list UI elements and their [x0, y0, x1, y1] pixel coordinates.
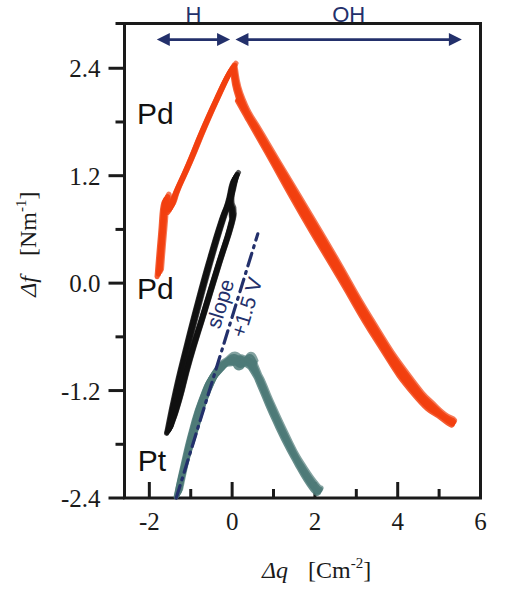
y-tick-label: 1.2 — [69, 163, 100, 190]
y-unit-exponent: -1 — [13, 200, 29, 213]
chart-figure: -202462.41.20.0-1.2-2.4 H OH slope +1.5 … — [0, 0, 510, 607]
x-tick-label: 2 — [309, 508, 322, 535]
curve-label-pd-red: Pd — [137, 97, 174, 130]
x-tick-label: 4 — [391, 508, 404, 535]
x-tick-label: -2 — [139, 508, 160, 535]
curve-label-pd-black: Pd — [137, 272, 174, 305]
x-axis-symbol: Δq — [261, 557, 288, 583]
region-label-oh: OH — [332, 2, 365, 27]
region-label-h: H — [185, 2, 201, 27]
curve-label-pt: Pt — [138, 444, 167, 477]
y-axis-symbol: Δf — [15, 273, 41, 298]
x-unit-close: ] — [363, 557, 371, 583]
x-tick-label: 0 — [226, 508, 239, 535]
y-tick-label: -2.4 — [61, 485, 101, 512]
x-unit-exponent: -2 — [351, 555, 364, 571]
y-unit-close: ] — [15, 192, 41, 200]
y-tick-label: 2.4 — [69, 55, 101, 82]
cv-nanomechanics-plot: -202462.41.20.0-1.2-2.4 H OH slope +1.5 … — [0, 0, 510, 607]
y-tick-label: -1.2 — [61, 378, 101, 405]
x-unit-open: [Cm — [308, 557, 351, 583]
x-tick-label: 6 — [474, 508, 487, 535]
y-tick-label: 0.0 — [69, 270, 100, 297]
y-unit-open: [Nm — [15, 212, 41, 256]
